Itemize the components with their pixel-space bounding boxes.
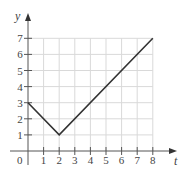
y-tick-label: 6: [17, 48, 23, 60]
line-chart: 123456781234567 t y 0: [0, 0, 189, 172]
x-tick-label: 7: [134, 154, 140, 166]
y-tick-label: 4: [17, 81, 23, 93]
tick-labels: 123456781234567: [17, 32, 156, 166]
y-axis-arrow-icon: [25, 13, 31, 21]
axes: [10, 13, 177, 165]
y-tick-label: 2: [17, 113, 23, 125]
x-tick-label: 5: [103, 154, 109, 166]
origin-label: 0: [17, 154, 23, 166]
y-tick-label: 5: [17, 65, 23, 77]
y-tick-label: 7: [17, 32, 23, 44]
y-tick-label: 1: [17, 129, 23, 141]
x-tick-label: 2: [56, 154, 62, 166]
x-tick-label: 3: [72, 154, 78, 166]
x-tick-label: 8: [150, 154, 156, 166]
x-tick-label: 4: [88, 154, 94, 166]
x-tick-label: 1: [41, 154, 47, 166]
y-tick-label: 3: [17, 97, 23, 109]
y-axis-label: y: [14, 9, 21, 23]
grid-lines: [28, 38, 153, 151]
x-axis-label: t: [174, 154, 178, 168]
x-tick-label: 6: [119, 154, 125, 166]
